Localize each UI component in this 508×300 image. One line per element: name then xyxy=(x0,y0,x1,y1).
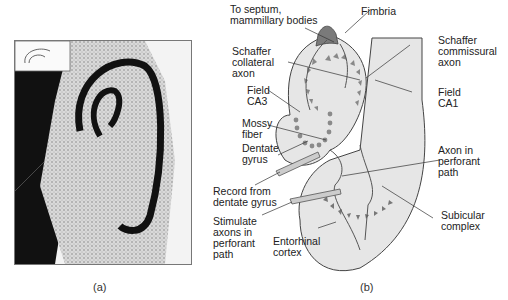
label-septum: To septum, mammillary bodies xyxy=(230,4,318,26)
label-ca3: Field CA3 xyxy=(247,85,270,107)
label-stimulate: Stimulate axons in perforant path xyxy=(213,216,257,260)
caption-b: (b) xyxy=(360,281,373,293)
label-record: Record from dentate gyrus xyxy=(213,186,277,208)
label-entorhinal: Entorhinal cortex xyxy=(273,236,320,258)
label-dentate-gyrus: Dentate gyrus xyxy=(242,143,279,165)
label-schaffer-commissural: Schaffer commissural axon xyxy=(438,35,497,68)
label-ca1: Field CA1 xyxy=(438,87,461,109)
label-schaffer-collateral: Schaffer collateral axon xyxy=(232,46,274,79)
label-perforant-axon: Axon in perforant path xyxy=(438,145,480,178)
label-fimbria: Fimbria xyxy=(361,6,396,17)
label-mossy-fiber: Mossy fiber xyxy=(242,118,272,140)
label-subicular: Subicular complex xyxy=(441,210,485,232)
